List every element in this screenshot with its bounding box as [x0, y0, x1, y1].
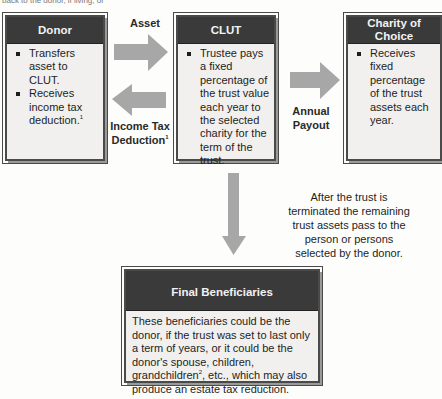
payout-arrow-right-icon [290, 62, 342, 102]
asset-arrow-right-icon [114, 34, 170, 74]
charity-title-line2: Choice [375, 30, 413, 43]
clut-body: Trustee pays a fixed percentage of the t… [178, 44, 274, 168]
donor-bullet: Transfers asset to CLUT. [13, 47, 99, 87]
clut-bullet: Trustee pays a fixed percentage of the t… [184, 47, 270, 168]
donor-box: Donor Transfers asset to CLUT. Receives … [5, 15, 105, 161]
donor-body: Transfers asset to CLUT. Receives income… [7, 44, 103, 127]
income-tax-arrow-left-icon [112, 84, 168, 124]
final-beneficiaries-box: Final Beneficiaries These beneficiaries … [124, 269, 320, 383]
charity-title-line1: Charity of [367, 17, 421, 30]
charity-bullet: Receives fixed percentage of the trust a… [354, 47, 436, 127]
final-title: Final Beneficiaries [171, 286, 273, 299]
footnote-1: 1 [80, 114, 83, 120]
donor-bullet: Receives income tax deduction.1 [13, 87, 99, 127]
charity-box: Charity of Choice Receives fixed percent… [346, 15, 442, 161]
final-header: Final Beneficiaries [126, 271, 318, 311]
clut-title: CLUT [211, 24, 242, 37]
income-tax-deduction-label: Income Tax Deduction1 [108, 119, 172, 147]
donor-header: Donor [7, 17, 103, 44]
termination-arrow-down-icon [221, 173, 247, 257]
annual-payout-label: Annual Payout [288, 104, 334, 132]
final-body: These beneficiaries could be the donor, … [126, 311, 318, 399]
charity-header: Charity of Choice [348, 17, 440, 44]
asset-label: Asset [122, 16, 168, 30]
clut-header: CLUT [178, 17, 274, 44]
cropped-top-text: back to the donor, if living, or [2, 0, 104, 5]
donor-title: Donor [38, 24, 72, 37]
charity-body: Receives fixed percentage of the trust a… [348, 44, 440, 127]
clut-box: CLUT Trustee pays a fixed percentage of … [176, 15, 276, 161]
termination-note: After the trust is terminated the remain… [286, 190, 412, 260]
